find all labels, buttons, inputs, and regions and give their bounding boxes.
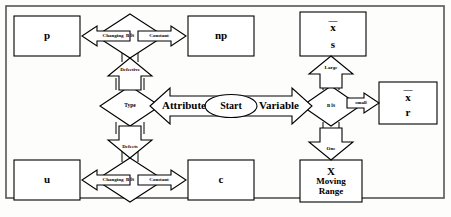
chart-box-c [188, 160, 254, 200]
diagram-vector-layer [0, 0, 451, 217]
chart-box-xbar-r [379, 82, 437, 124]
chart-box-p [14, 16, 80, 56]
chart-box-x-moving-range [300, 160, 362, 202]
start-ellipse [205, 95, 257, 118]
diagram-canvas: p np u c — x s — x r X Moving Range n is… [0, 0, 451, 217]
chart-box-u [14, 160, 80, 200]
chart-box-np [188, 16, 254, 56]
chart-box-xbar-s [300, 12, 366, 56]
